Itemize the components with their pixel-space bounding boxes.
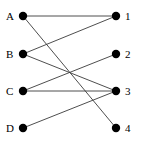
graph-edge-D-3 <box>23 91 116 128</box>
edge-layer <box>23 16 116 128</box>
node-label-1: 1 <box>125 11 131 22</box>
graph-node-B <box>19 50 27 58</box>
node-label-4: 4 <box>125 123 131 134</box>
node-label-A: A <box>6 11 14 22</box>
node-label-3: 3 <box>125 86 131 97</box>
bipartite-graph-diagram: ABCD1234 <box>0 0 141 142</box>
node-label-D: D <box>6 123 14 134</box>
graph-node-D <box>19 124 27 132</box>
node-label-C: C <box>6 86 13 97</box>
graph-edge-A-4 <box>23 16 116 128</box>
graph-node-A <box>19 12 27 20</box>
node-label-2: 2 <box>125 49 131 60</box>
graph-canvas <box>0 0 141 142</box>
node-label-B: B <box>6 49 13 60</box>
graph-node-2 <box>112 50 120 58</box>
graph-node-C <box>19 87 27 95</box>
graph-node-3 <box>112 87 120 95</box>
graph-edge-B-1 <box>23 16 116 54</box>
graph-node-1 <box>112 12 120 20</box>
graph-node-4 <box>112 124 120 132</box>
